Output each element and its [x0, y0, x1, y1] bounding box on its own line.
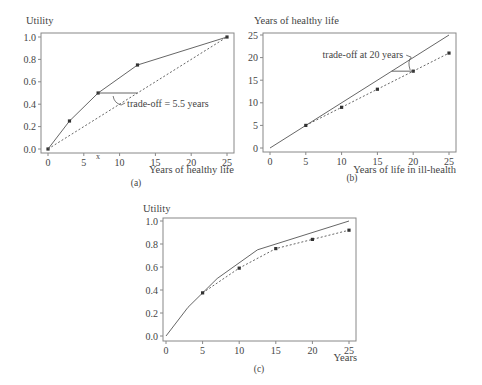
- y-tick-label: 0.2: [24, 121, 37, 132]
- y-tick-label: 0.6: [146, 262, 159, 273]
- annotation-pointer: [406, 55, 411, 70]
- data-point: [238, 267, 241, 270]
- annotation-pointer: [113, 96, 125, 105]
- x-axis-title: Years of healthy life: [149, 164, 234, 175]
- y-tick-label: 5: [253, 120, 258, 131]
- x-tick-label: 20: [307, 345, 317, 356]
- x-tick-label: 10: [234, 345, 244, 356]
- y-tick-label: 10: [248, 97, 258, 108]
- y-tick-label: 0.6: [24, 76, 37, 87]
- series-line-0: [166, 221, 349, 336]
- chart-panel-a: 0.00.20.40.60.81.00510152025xUtilityYear…: [24, 15, 235, 189]
- x-tick-label: 10: [337, 156, 347, 167]
- annotation: trade-off = 5.5 years: [98, 93, 209, 109]
- data-point: [201, 291, 204, 294]
- y-tick-label: 25: [248, 30, 258, 41]
- data-point: [447, 51, 450, 54]
- data-point: [68, 119, 71, 122]
- y-tick-label: 0.0: [146, 331, 159, 342]
- annotation-label: trade-off = 5.5 years: [127, 98, 209, 109]
- series-line-1: [203, 230, 349, 293]
- y-tick-label: 0.4: [24, 99, 37, 110]
- y-tick-label: 0.2: [146, 308, 159, 319]
- y-tick-label: 20: [248, 52, 258, 63]
- y-tick-label: 0.8: [146, 239, 159, 250]
- chart-panel-b: 05101520250510152025Years of healthy lif…: [248, 15, 457, 184]
- panel-caption: (b): [346, 173, 357, 184]
- x-tick-label: 5: [200, 345, 205, 356]
- data-point: [304, 124, 307, 127]
- annotation: trade-off at 20 years: [323, 49, 414, 71]
- y-tick-label: 0.8: [24, 54, 37, 65]
- y-axis: 0.00.20.40.60.81.0: [146, 216, 164, 342]
- data-point: [347, 229, 350, 232]
- y-axis: 0.00.20.40.60.81.0: [24, 32, 42, 155]
- y-tick-label: 0.4: [146, 285, 159, 296]
- y-axis-title: Utility: [26, 15, 54, 26]
- x-tick-label: 15: [271, 345, 281, 356]
- y-tick-label: 0.0: [24, 144, 37, 155]
- x-extra-mark: x: [96, 152, 100, 161]
- y-axis-title: Utility: [143, 203, 171, 214]
- x-tick-label: 0: [46, 157, 51, 168]
- figure-canvas: 0.00.20.40.60.81.00510152025xUtilityYear…: [0, 0, 482, 385]
- y-axis-title: Years of healthy life: [254, 15, 339, 26]
- y-tick-label: 0: [253, 143, 258, 154]
- annotation-label: trade-off at 20 years: [323, 49, 404, 60]
- data-point: [340, 106, 343, 109]
- y-tick-label: 15: [248, 75, 258, 86]
- data-point: [311, 238, 314, 241]
- x-axis-title: Years: [334, 352, 357, 363]
- panel-caption: (a): [131, 178, 142, 189]
- data-point: [376, 88, 379, 91]
- chart-panel-c: 0.00.20.40.60.81.00510152025UtilityYears…: [143, 203, 357, 375]
- y-tick-label: 1.0: [24, 32, 37, 43]
- panel-caption: (c): [254, 364, 265, 375]
- x-tick-label: 5: [81, 157, 86, 168]
- x-tick-label: 10: [115, 157, 125, 168]
- x-tick-label: 5: [303, 156, 308, 167]
- x-tick-label: 0: [268, 156, 273, 167]
- x-axis-title: Years of life in ill-health: [353, 164, 456, 175]
- data-point: [274, 247, 277, 250]
- x-axis: 0510152025: [164, 341, 355, 356]
- x-tick-label: 0: [164, 345, 169, 356]
- y-tick-label: 1.0: [146, 216, 159, 227]
- data-point: [136, 63, 139, 66]
- plot-frame: [163, 218, 356, 341]
- y-axis: 0510152025: [248, 30, 263, 154]
